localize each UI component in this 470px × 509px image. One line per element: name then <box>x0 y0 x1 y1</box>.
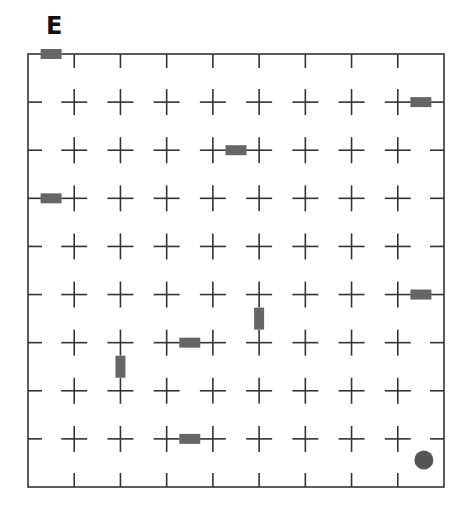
wall-segment-horizontal <box>41 193 62 203</box>
maze-grid <box>0 0 470 509</box>
wall-segment-horizontal <box>410 97 431 107</box>
wall-segment-vertical <box>254 308 264 330</box>
wall-segment-horizontal <box>226 145 247 155</box>
goal-marker-circle <box>414 450 433 469</box>
wall-segment-horizontal <box>179 338 200 348</box>
wall-segment-horizontal <box>410 290 431 300</box>
wall-segment-horizontal <box>179 434 200 444</box>
wall-segment-horizontal <box>41 49 62 59</box>
maze-diagram: E <box>0 0 470 509</box>
wall-segment-vertical <box>115 356 125 378</box>
grid-frame <box>28 54 444 487</box>
